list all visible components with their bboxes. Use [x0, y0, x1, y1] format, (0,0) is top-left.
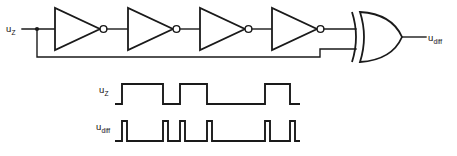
- waveform-label-udiff-sub: diff: [101, 127, 110, 134]
- circuit-diagram-figure: uZ udiff uZ udiff: [0, 0, 457, 156]
- inverter-1-body: [55, 8, 100, 50]
- inverter-4-bubble: [317, 26, 324, 33]
- input-label-uz-sub: Z: [11, 29, 15, 36]
- inverter-2-bubble: [173, 26, 180, 33]
- output-label-udiff: udiff: [428, 33, 442, 45]
- waveform-uz-trace: [115, 84, 300, 104]
- inverter-3-body: [200, 8, 245, 50]
- waveform-label-uz-sub: Z: [104, 90, 108, 97]
- input-label-uz: uZ: [6, 24, 16, 36]
- waveform-label-uz: uZ: [99, 85, 109, 97]
- inverter-1-bubble: [100, 26, 107, 33]
- inverter-4-body: [272, 8, 317, 50]
- xor-extra-arc: [352, 12, 356, 62]
- output-label-udiff-sub: diff: [433, 38, 442, 45]
- inverter-3-bubble: [245, 26, 252, 33]
- waveform-udiff-trace: [115, 121, 300, 141]
- xor-gate-body: [360, 12, 402, 62]
- waveform-label-udiff: udiff: [96, 122, 110, 134]
- diagram-canvas: [0, 0, 457, 156]
- inverter-2-body: [128, 8, 173, 50]
